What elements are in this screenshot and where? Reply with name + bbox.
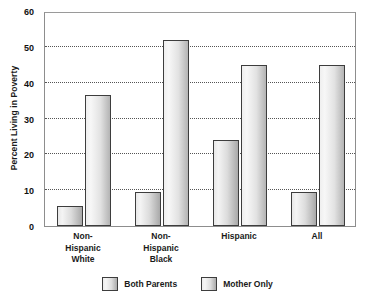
gridline-50: [45, 46, 355, 47]
x-axis-label-0: Non-HispanicWhite: [43, 231, 123, 266]
y-tick-label-60: 60: [0, 7, 34, 17]
bar: [163, 40, 189, 226]
x-label-line: Black: [121, 254, 201, 266]
bar: [85, 95, 111, 226]
x-label-line: All: [277, 231, 357, 243]
x-label-line: White: [43, 254, 123, 266]
y-axis-tick-labels: 0102030405060: [0, 0, 40, 305]
bar: [135, 192, 161, 226]
bar: [241, 65, 267, 226]
plot-inner: [45, 13, 355, 226]
y-tick-label-10: 10: [0, 186, 34, 196]
legend-label: Mother Only: [223, 279, 273, 289]
legend-swatch-icon: [201, 277, 217, 291]
y-tick-label-50: 50: [0, 43, 34, 53]
gridline-40: [45, 82, 355, 83]
bar: [291, 192, 317, 226]
bar: [319, 65, 345, 226]
x-axis-label-3: All: [277, 231, 357, 243]
poverty-bar-chart: Percent Living in Poverty 0102030405060 …: [0, 0, 375, 305]
x-axis-label-1: Non-HispanicBlack: [121, 231, 201, 266]
x-axis-category-labels: Non-HispanicWhiteNon-HispanicBlackHispan…: [44, 231, 356, 273]
y-tick-label-20: 20: [0, 150, 34, 160]
x-label-line: Hispanic: [121, 243, 201, 255]
legend-label: Both Parents: [124, 279, 177, 289]
chart-legend: Both ParentsMother Only: [0, 277, 375, 291]
x-axis-label-2: Hispanic: [199, 231, 279, 243]
y-tick-label-0: 0: [0, 222, 34, 232]
legend-item-1: Mother Only: [201, 277, 273, 291]
plot-area: [44, 12, 356, 227]
legend-item-0: Both Parents: [102, 277, 177, 291]
y-tick-label-40: 40: [0, 79, 34, 89]
bar: [57, 206, 83, 226]
x-label-line: Hispanic: [199, 231, 279, 243]
y-tick-label-30: 30: [0, 115, 34, 125]
x-label-line: Non-: [43, 231, 123, 243]
x-label-line: Hispanic: [43, 243, 123, 255]
bar: [213, 140, 239, 226]
x-label-line: Non-: [121, 231, 201, 243]
legend-swatch-icon: [102, 277, 118, 291]
